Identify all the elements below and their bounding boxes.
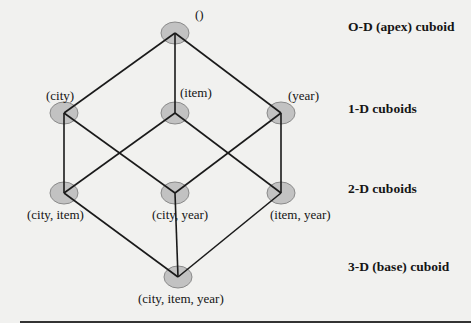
edge-apex-city (64, 33, 175, 113)
node-label-city: (city) (46, 89, 74, 102)
edge-item_year-base (178, 193, 281, 277)
level-label-3d: 3-D (base) cuboid (348, 260, 449, 274)
node-label-city-item: (city, item) (27, 208, 84, 221)
edge-apex-year (175, 33, 281, 113)
node-label-base: (city, item, year) (138, 292, 224, 305)
cuboid-lattice-diagram: () (city) (item) (year) (city, item) (ci… (0, 0, 471, 323)
node-label-city-year: (city, year) (152, 208, 208, 221)
edge-city_year-base (175, 193, 178, 277)
node-label-item-year: (item, year) (270, 208, 331, 221)
node-label-year: (year) (288, 89, 319, 102)
node-label-apex: () (195, 8, 204, 21)
level-label-apex: O-D (apex) cuboid (348, 20, 455, 34)
level-label-2d: 2-D cuboids (348, 182, 417, 196)
node-label-item: (item) (180, 86, 212, 99)
level-label-1d: 1-D cuboids (348, 102, 417, 116)
edge-city_item-base (64, 193, 178, 277)
lattice-graph (0, 0, 471, 323)
